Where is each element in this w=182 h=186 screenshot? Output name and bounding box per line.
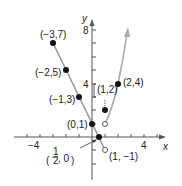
- graph: y x 8 4 −4 4 (−3,7) (−2,5) (−1,3) (0,1) …: [0, 0, 182, 186]
- point-0-1: [89, 121, 95, 127]
- label-point-neg3-7: (−3,7): [40, 29, 66, 40]
- label-point-1-neg1: (1, −1): [109, 151, 138, 162]
- point-1-2: [102, 107, 108, 113]
- label-point-2-4: (2,4): [123, 77, 144, 88]
- svg-text:): ): [71, 155, 74, 166]
- tick-label-4x: 4: [141, 140, 147, 151]
- y-axis: [90, 19, 97, 180]
- label-point-neg1-3: (−1,3): [49, 94, 75, 105]
- point-neg3-7: [50, 40, 56, 46]
- x-axis: [14, 134, 166, 140]
- open-point-1-neg1: [103, 148, 108, 153]
- x-axis-label: x: [162, 141, 169, 152]
- label-point-0-1: (0,1): [67, 119, 88, 130]
- point-neg2-5: [63, 67, 69, 73]
- open-point-1-1: [103, 122, 108, 127]
- tick-label-neg4: −4: [28, 140, 40, 151]
- y-axis-label: y: [81, 13, 88, 24]
- tick-label-8: 8: [83, 25, 89, 36]
- svg-text:, 0: , 0: [58, 153, 70, 164]
- tick-label-4y: 4: [83, 79, 89, 90]
- label-point-half-0: ( 1 2 , 0 ): [46, 146, 74, 166]
- label-point-1-2: (1,2): [97, 84, 118, 95]
- point-half-0: [96, 134, 102, 140]
- parabola-arrow: [124, 27, 130, 37]
- svg-text:(: (: [46, 155, 50, 166]
- point-neg1-3: [76, 94, 82, 100]
- label-point-neg2-5: (−2,5): [35, 67, 61, 78]
